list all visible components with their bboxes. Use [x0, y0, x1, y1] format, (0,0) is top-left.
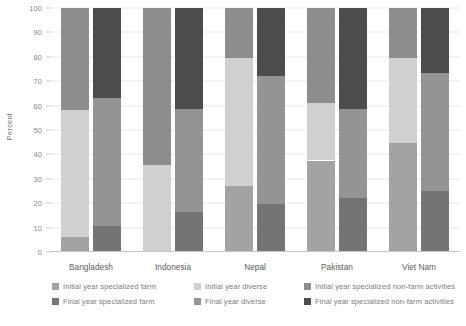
bar-segment[interactable]	[175, 109, 203, 211]
x-category-label: Indonesia	[155, 262, 191, 272]
y-tick-label: 80	[33, 52, 42, 61]
bar-segment[interactable]	[421, 191, 449, 252]
legend-item[interactable]: Final year specialized farm	[52, 298, 155, 306]
bar-group	[132, 8, 214, 252]
bar-segment[interactable]	[93, 98, 121, 226]
bar-final-year[interactable]	[339, 8, 367, 252]
bar-group	[214, 8, 296, 252]
legend-label: Initial year diverse	[205, 283, 267, 291]
bar-final-year[interactable]	[175, 8, 203, 252]
chart-legend: Initial year specialized farmInitial yea…	[52, 283, 456, 313]
y-tick-label: 0	[38, 248, 42, 257]
bar-segment[interactable]	[143, 165, 171, 252]
legend-swatch-icon	[194, 283, 201, 290]
bar-initial-year[interactable]	[389, 8, 417, 252]
x-category-label: Bangladesh	[69, 262, 113, 272]
bar-final-year[interactable]	[421, 8, 449, 252]
y-tick-label: 30	[33, 174, 42, 183]
legend-label: Initial year specialized farm	[63, 283, 156, 291]
bar-segment[interactable]	[143, 8, 171, 165]
plot-wrapper: 0102030405060708090100	[20, 8, 460, 260]
y-tick-label: 100	[29, 4, 42, 13]
legend-label: Final year specialized farm	[63, 298, 155, 306]
bar-segment[interactable]	[61, 237, 89, 252]
x-axis-baseline	[50, 251, 460, 252]
bar-initial-year[interactable]	[225, 8, 253, 252]
bar-final-year[interactable]	[257, 8, 285, 252]
bar-segment[interactable]	[93, 226, 121, 252]
bar-group	[296, 8, 378, 252]
bar-segment[interactable]	[389, 143, 417, 252]
x-axis-category-labels: BangladeshIndonesiaNepalPakistanViet Nam	[50, 262, 460, 276]
y-axis-ticks: 0102030405060708090100	[20, 8, 46, 252]
bar-segment[interactable]	[307, 161, 335, 253]
bar-segment[interactable]	[389, 8, 417, 58]
legend-item[interactable]: Final year specialized non-farm activiti…	[304, 298, 454, 306]
bar-segment[interactable]	[61, 8, 89, 110]
legend-label: Final year diverse	[205, 298, 266, 306]
stacked-bar-chart: Percent 0102030405060708090100 Banglades…	[0, 0, 466, 326]
y-tick-label: 90	[33, 28, 42, 37]
bar-segment[interactable]	[307, 103, 335, 160]
bar-segment[interactable]	[421, 73, 449, 191]
bar-initial-year[interactable]	[307, 8, 335, 252]
y-tick-label: 60	[33, 101, 42, 110]
x-category-label: Pakistan	[321, 262, 353, 272]
legend-swatch-icon	[304, 283, 311, 290]
bar-segment[interactable]	[225, 8, 253, 58]
y-tick-label: 70	[33, 77, 42, 86]
bar-segment[interactable]	[339, 109, 367, 198]
bar-segment[interactable]	[257, 76, 285, 204]
legend-item[interactable]: Initial year diverse	[194, 283, 267, 291]
y-axis-title-text: Percent	[6, 112, 15, 139]
legend-swatch-icon	[304, 298, 311, 305]
bar-segment[interactable]	[175, 8, 203, 109]
x-category-label: Nepal	[244, 262, 266, 272]
y-axis-title: Percent	[2, 0, 18, 252]
legend-item[interactable]: Final year diverse	[194, 298, 266, 306]
bar-segment[interactable]	[225, 58, 253, 186]
legend-label: Initial year specialized non-farm activi…	[315, 283, 455, 291]
bar-segment[interactable]	[421, 8, 449, 73]
y-tick-label: 50	[33, 126, 42, 135]
bar-initial-year[interactable]	[61, 8, 89, 252]
y-tick-label: 40	[33, 150, 42, 159]
bar-segment[interactable]	[307, 8, 335, 103]
x-category-label: Viet Nam	[402, 262, 436, 272]
legend-swatch-icon	[194, 298, 201, 305]
bar-segment[interactable]	[339, 198, 367, 252]
bar-group	[50, 8, 132, 252]
legend-swatch-icon	[52, 298, 59, 305]
bar-final-year[interactable]	[93, 8, 121, 252]
legend-item[interactable]: Initial year specialized farm	[52, 283, 156, 291]
legend-item[interactable]: Initial year specialized non-farm activi…	[304, 283, 455, 291]
bar-segment[interactable]	[175, 212, 203, 252]
bar-segment[interactable]	[93, 8, 121, 98]
legend-row-initial-year: Initial year specialized farmInitial yea…	[52, 283, 456, 298]
bar-groups	[50, 8, 460, 252]
bar-group	[378, 8, 460, 252]
bar-segment[interactable]	[389, 58, 417, 143]
bar-segment[interactable]	[225, 186, 253, 252]
y-tick-label: 20	[33, 199, 42, 208]
y-tick-label: 10	[33, 223, 42, 232]
bar-initial-year[interactable]	[143, 8, 171, 252]
bar-segment[interactable]	[339, 8, 367, 109]
bar-segment[interactable]	[61, 110, 89, 237]
legend-label: Final year specialized non-farm activiti…	[315, 298, 454, 306]
bar-segment[interactable]	[257, 204, 285, 252]
legend-row-final-year: Final year specialized farmFinal year di…	[52, 298, 456, 313]
plot-area	[50, 8, 460, 252]
legend-swatch-icon	[52, 283, 59, 290]
bar-segment[interactable]	[257, 8, 285, 76]
